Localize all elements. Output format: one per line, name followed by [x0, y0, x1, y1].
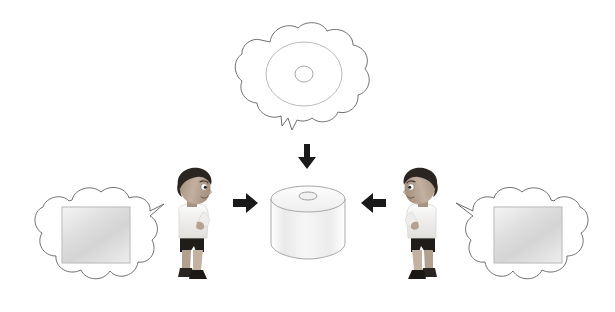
top-thought-bubble-outline	[235, 23, 369, 130]
left-child-shoe-front	[189, 270, 207, 279]
arrow-left-icon	[360, 193, 386, 213]
arrow-left-to-object	[233, 193, 259, 213]
right-child-shoe-front	[408, 270, 426, 279]
right-thought-square	[494, 207, 562, 263]
arrow-top-to-object	[297, 144, 317, 170]
right-thought-bubble: square shape seen from the side	[444, 182, 602, 294]
arrow-right-to-object	[360, 193, 386, 213]
arrow-down-icon	[297, 144, 317, 170]
left-child-leg-back	[182, 250, 191, 270]
top-thought-bubble-svg: ring shape seen from above	[222, 18, 382, 158]
left-child-pupil	[204, 186, 207, 189]
left-child-leg-front	[193, 250, 203, 270]
right-child-leg-front	[412, 250, 422, 270]
perspective-diagram-scene: Perspective taking: two observers viewin…	[0, 0, 615, 312]
right-child-svg: right child observer	[390, 166, 452, 286]
right-child-leg-back	[424, 250, 433, 270]
right-thought-bubble-svg: square shape seen from the side	[444, 182, 602, 294]
top-thought-bubble: ring shape seen from above	[222, 18, 382, 158]
cylinder-center-hole	[299, 192, 317, 200]
right-child-pupil	[408, 186, 411, 189]
arrow-right-icon	[233, 193, 259, 213]
right-child-observer: right child observer	[390, 166, 452, 286]
left-thought-square	[62, 207, 130, 263]
cylinder-svg: cylinder (paper roll)	[263, 181, 355, 267]
left-thought-bubble: square shape seen from the side	[24, 182, 176, 294]
left-thought-bubble-svg: square shape seen from the side	[24, 182, 176, 294]
center-cylinder-object: cylinder (paper roll)	[263, 181, 355, 267]
